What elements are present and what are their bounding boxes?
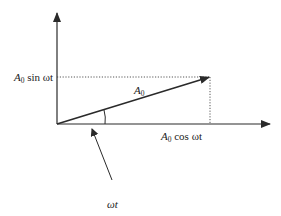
phasor-diagram: A0 sin ωt A0 A0 cos ωt ωt [0, 0, 281, 216]
cos-label: A0 cos ωt [160, 130, 202, 144]
sin-label: A0 sin ωt [13, 71, 53, 85]
angle-label: ωt [107, 198, 119, 210]
angle-pointer-arrow [92, 129, 112, 180]
phasor-label: A0 [133, 84, 145, 98]
angle-arc [104, 110, 105, 124]
phasor-vector [57, 77, 209, 124]
